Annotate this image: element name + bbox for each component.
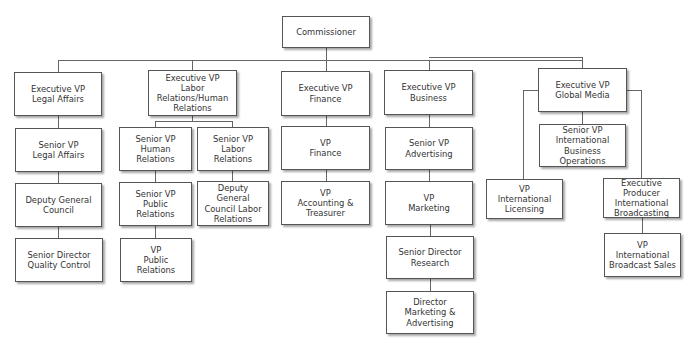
connector-line	[58, 116, 59, 128]
connector-line	[582, 112, 583, 124]
connector-line	[627, 90, 642, 91]
node-vp-marketing: VP Marketing	[385, 181, 473, 225]
connector-line	[58, 60, 583, 61]
connector-line	[155, 226, 156, 238]
connector-line	[58, 227, 59, 238]
connector-line	[582, 57, 583, 68]
node-svp-advertising: Senior VP Advertising	[385, 127, 473, 170]
node-vp-international-broadcast-sales: VP International Broadcast Sales	[604, 233, 681, 277]
connector-line	[429, 60, 430, 70]
connector-line	[326, 48, 327, 60]
connector-line	[192, 60, 193, 70]
connector-line	[58, 172, 59, 183]
connector-line	[429, 57, 583, 58]
node-vp-international-licensing: VP International Licensing	[486, 179, 563, 219]
org-chart: Commissioner Executive VP Legal Affairs …	[0, 0, 696, 348]
node-senior-director-research: Senior Director Research	[386, 236, 474, 279]
connector-line	[232, 171, 233, 181]
node-svp-international-business-operations: Senior VP International Business Operati…	[539, 124, 626, 167]
connector-line	[429, 115, 430, 127]
node-svp-human-relations: Senior VP Human Relations	[119, 127, 192, 171]
node-director-marketing-advertising: Director Marketing & Advertising	[386, 291, 474, 334]
connector-line	[326, 60, 327, 71]
node-commissioner: Commissioner	[282, 16, 370, 48]
connector-line	[523, 90, 538, 91]
connector-line	[155, 121, 233, 122]
node-evp-finance: Executive VP Finance	[281, 71, 370, 116]
node-vp-finance: VP Finance	[281, 126, 370, 170]
node-deputy-general-council: Deputy General Council	[15, 183, 102, 227]
node-executive-producer-international-broadcasting: Executive Producer International Broadca…	[603, 178, 680, 218]
node-svp-labor-relations: Senior VP Labor Relations	[197, 127, 269, 171]
node-svp-legal-affairs: Senior VP Legal Affairs	[15, 128, 102, 172]
connector-line	[430, 225, 431, 236]
connector-line	[155, 171, 156, 182]
node-evp-labor-human-relations: Executive VP Labor Relations/Human Relat…	[148, 70, 237, 116]
connector-line	[429, 170, 430, 181]
node-deputy-general-council-labor-relations: Deputy General Council Labor Relations	[197, 181, 269, 226]
node-vp-accounting-treasurer: VP Accounting & Treasurer	[281, 181, 370, 225]
node-evp-business: Executive VP Business	[384, 70, 473, 115]
node-svp-public-relations: Senior VP Public Relations	[119, 182, 192, 226]
node-evp-global-media: Executive VP Global Media	[538, 68, 627, 112]
connector-line	[641, 90, 642, 178]
connector-line	[326, 116, 327, 126]
connector-line	[326, 170, 327, 181]
node-vp-public-relations: VP Public Relations	[120, 238, 192, 282]
connector-line	[523, 90, 524, 179]
connector-line	[58, 60, 59, 72]
node-evp-legal-affairs: Executive VP Legal Affairs	[14, 72, 102, 116]
connector-line	[430, 279, 431, 291]
node-senior-director-quality-control: Senior Director Quality Control	[15, 238, 103, 282]
connector-line	[642, 218, 643, 233]
